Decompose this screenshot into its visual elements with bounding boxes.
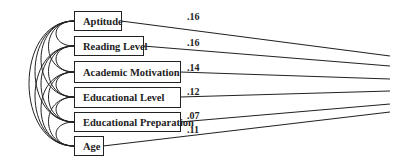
variable-label: Reading Level [83, 41, 147, 52]
variable-label: Educational Preparation [83, 117, 194, 128]
coefficient-aptitude: .16 [187, 11, 200, 22]
variable-label: Age [83, 141, 101, 152]
variable-box-educational-preparation: Educational Preparation [74, 112, 181, 132]
coefficient-age: .11 [187, 124, 199, 135]
variable-box-academic-motivation: Academic Motivation [74, 61, 181, 83]
variable-label: Academic Motivation [83, 67, 180, 78]
variable-box-aptitude: Aptitude [74, 11, 122, 31]
correlation-arcs [29, 21, 74, 146]
variable-box-educational-level: Educational Level [74, 87, 181, 108]
variable-label: Educational Level [83, 92, 164, 103]
path-diagram [0, 0, 402, 167]
variable-label: Aptitude [83, 16, 123, 27]
coefficient-reading-level: .16 [187, 37, 200, 48]
coefficient-academic-motivation: .14 [187, 62, 200, 73]
coefficient-educational-level: .12 [187, 86, 200, 97]
variable-box-age: Age [74, 136, 104, 156]
coefficient-educational-preparation: .07 [187, 110, 200, 121]
variable-box-reading-level: Reading Level [74, 36, 144, 56]
